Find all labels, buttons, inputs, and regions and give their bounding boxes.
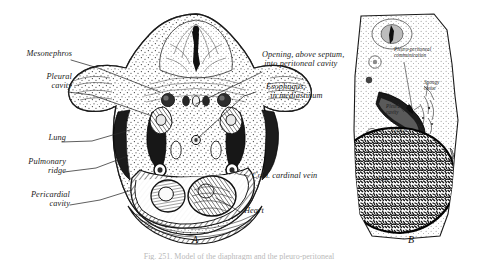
- label-liver: Liver: [378, 177, 389, 183]
- label-pleural-cavity-a: Pleural cavity: [6, 72, 72, 91]
- figure-caption: Fig. 251. Model of the diaphragm and the…: [0, 252, 478, 260]
- dorsal-vessels: [161, 93, 230, 106]
- figure-plate: Mesonephros Pleural cavity Lung Pulmonar…: [0, 0, 478, 260]
- label-pleural-cavity-b: Pleural cavity: [386, 104, 402, 115]
- panel-a-drawing: [69, 14, 312, 244]
- label-esophagus-in-mediastinum: Esophagus, in mediastinum: [266, 82, 323, 101]
- label-lung: Lung: [6, 133, 66, 142]
- panel-a-letter: A: [192, 234, 198, 245]
- label-opening-into-peritoneal-cavity: Opening, above septum, into peritoneal c…: [262, 50, 344, 69]
- label-pleuro-peritoneal-communication: Pleuro-peritoneal communication: [394, 47, 431, 58]
- panel-b-letter: B: [408, 234, 414, 245]
- label-pulmonary-ridge: Pulmonary ridge: [2, 157, 66, 176]
- label-common-cardinal-vein: Com. cardinal vein: [252, 171, 317, 180]
- label-heart: Heart: [244, 206, 264, 215]
- label-spongy-tissue: Spongy tissue: [424, 80, 439, 91]
- label-septum: Septum: [392, 128, 407, 134]
- label-mesonephros: Mesonephros: [6, 49, 72, 58]
- label-pericardial-cavity: Pericardial cavity: [0, 190, 70, 209]
